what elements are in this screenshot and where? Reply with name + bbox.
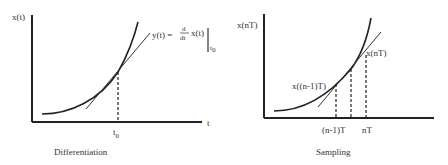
- curve-x-of-nT: [274, 18, 371, 111]
- point-label-lower: x((n-1)T): [292, 81, 326, 91]
- tick-label-n: nT: [362, 125, 373, 135]
- point-label-upper: x(nT): [366, 48, 387, 58]
- secant-line: [318, 32, 381, 107]
- svg-text:t0: t0: [210, 44, 216, 54]
- derivative-equation: y(t) = d dt x(t) t0: [152, 25, 216, 54]
- differentiation-panel: x(t) t t0 y(t) = d dt x(t) t0 Differenti…: [12, 12, 216, 157]
- y-axis-label: x(t): [12, 12, 25, 22]
- x-axis-label: t: [207, 118, 210, 128]
- tick-label-t0: t0: [113, 127, 120, 140]
- svg-text:dt: dt: [180, 34, 186, 42]
- svg-text:d: d: [182, 25, 186, 33]
- sampling-panel: x(nT) x(nT) x((n-1)T) (n-1)T nT Sampling: [237, 14, 434, 157]
- tick-label-n-1: (n-1)T: [322, 125, 346, 135]
- svg-text:y(t) =: y(t) =: [152, 30, 172, 40]
- caption-differentiation: Differentiation: [54, 147, 108, 157]
- curve-x-of-t: [42, 22, 138, 114]
- svg-text:x(t): x(t): [191, 28, 204, 38]
- caption-sampling: Sampling: [316, 147, 351, 157]
- y-axis-label: x(nT): [237, 20, 258, 30]
- diagram-canvas: x(t) t t0 y(t) = d dt x(t) t0 Differenti…: [0, 0, 448, 165]
